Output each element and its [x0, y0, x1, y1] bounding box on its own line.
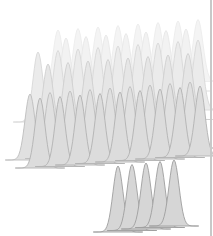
bell-curves-illustration [0, 0, 213, 236]
curve-row [93, 160, 198, 232]
right-edge-line [210, 0, 212, 236]
